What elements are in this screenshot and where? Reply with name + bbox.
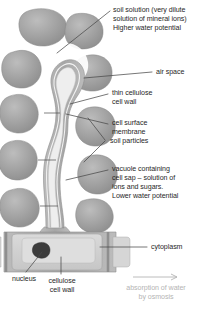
adjacent-cell-left [0,237,1,267]
soil-particle [2,50,42,88]
soil-particle [0,188,39,227]
label-vacuole: vacuole containing cell sap – solution o… [112,165,178,201]
label-air-space: air space [156,68,184,77]
label-nucleus: nucleus [12,275,36,284]
soil-particle [0,140,37,180]
soil-particle [0,94,38,133]
label-cytoplasm: cytoplasm [151,243,182,252]
diagram-artwork [0,0,219,312]
absorption-arrow [133,274,177,280]
label-thin-cellulose-cell-wall: thin cellulose cell wall [112,89,152,107]
soil-particle [76,199,114,233]
nucleus [32,242,50,258]
label-absorption-of-water-by-osmosis: absorption of water by osmosis [112,284,200,302]
label-cellulose-cell-wall: cellulose cell wall [41,277,83,295]
adjacent-cell-right [113,237,130,267]
root-hair-cell-body [0,227,130,272]
soil-particle [19,9,67,46]
label-cell-surface-membrane: cell surface membrane [112,119,147,137]
root-hair-cell-diagram: soil solution (very dilute solution of m… [0,0,219,312]
label-soil-solution: soil solution (very dilute solution of m… [113,6,187,33]
label-soil-particles: soil particles [110,137,148,146]
